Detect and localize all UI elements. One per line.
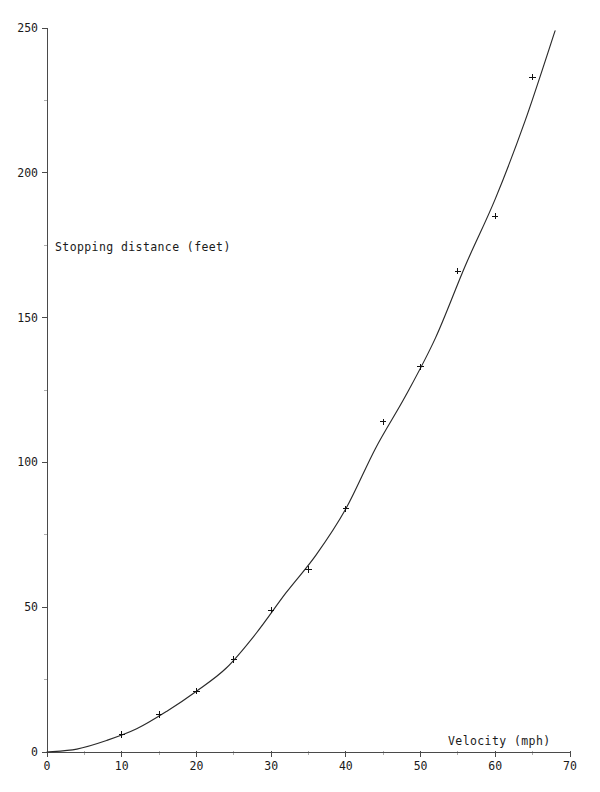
- data-point-marker: [380, 419, 386, 425]
- y-tick-label: 50: [24, 600, 38, 614]
- fitted-curve: [47, 31, 555, 752]
- x-tick-label: 60: [488, 759, 502, 773]
- scatter-plot-svg: 050100150200250 010203040506070 Stopping…: [0, 0, 600, 792]
- data-point-marker: [156, 711, 162, 717]
- data-point-marker-group: [119, 74, 536, 738]
- data-point-marker: [529, 74, 535, 80]
- chart-figure: 050100150200250 010203040506070 Stopping…: [0, 0, 600, 792]
- x-axis-title: Velocity (mph): [448, 734, 551, 748]
- x-tick-label: 0: [44, 759, 51, 773]
- y-axis-tick-labels: 050100150200250: [17, 21, 38, 759]
- x-tick-label: 70: [563, 759, 577, 773]
- y-tick-label: 150: [17, 311, 38, 325]
- y-tick-label: 250: [17, 21, 38, 35]
- y-tick-label: 100: [17, 455, 38, 469]
- data-point-marker: [492, 213, 498, 219]
- x-tick-label: 50: [414, 759, 428, 773]
- x-axis-tick-labels: 010203040506070: [44, 759, 577, 773]
- data-point-marker: [268, 607, 274, 613]
- data-point-marker: [119, 731, 125, 737]
- y-axis-title: Stopping distance (feet): [55, 240, 231, 254]
- y-tick-label: 200: [17, 166, 38, 180]
- x-tick-label: 10: [115, 759, 129, 773]
- x-tick-label: 20: [189, 759, 203, 773]
- x-tick-label: 30: [264, 759, 278, 773]
- y-tick-label: 0: [31, 745, 38, 759]
- data-point-marker: [455, 268, 461, 274]
- x-tick-label: 40: [339, 759, 353, 773]
- data-point-marker: [343, 506, 349, 512]
